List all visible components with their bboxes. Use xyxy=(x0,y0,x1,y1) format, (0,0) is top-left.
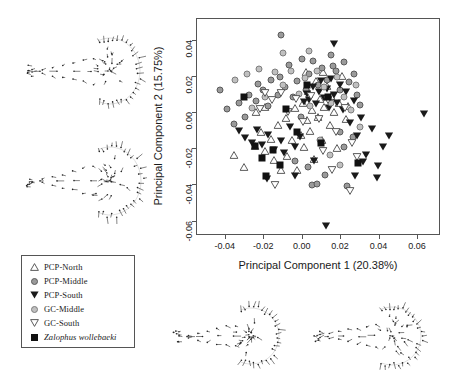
open-triangle-down-icon xyxy=(307,86,316,104)
top-left-landmark-grid xyxy=(18,22,158,120)
x-axis-tick xyxy=(263,235,264,239)
filled-square-icon xyxy=(303,82,310,89)
filled-circle-light-gray-icon xyxy=(248,104,255,111)
bottom-right-landmark-grid xyxy=(306,296,438,376)
filled-circle-gray-icon xyxy=(328,52,335,59)
filled-circle-light-gray-icon xyxy=(232,76,239,83)
open-triangle-down-icon xyxy=(30,319,39,327)
legend-item-label: GC-South xyxy=(44,318,79,328)
filled-circle-gray-icon xyxy=(27,278,41,285)
filled-circle-gray-icon xyxy=(293,78,300,85)
legend-item-label: PCP-Middle xyxy=(44,276,88,286)
filled-circle-light-gray-icon xyxy=(256,65,263,72)
legend-item-label: GC-Middle xyxy=(44,304,84,314)
scatter-points-layer xyxy=(197,19,439,234)
filled-triangle-down-icon xyxy=(367,119,376,137)
open-triangle-down-icon xyxy=(291,89,300,107)
y-axis-tick-label: -0.06 xyxy=(184,221,194,242)
open-triangle-down-icon xyxy=(328,160,337,178)
filled-circle-gray-icon xyxy=(277,32,284,39)
filled-circle-light-gray-icon xyxy=(31,306,38,313)
filled-circle-light-gray-icon xyxy=(334,73,341,80)
y-axis-tick-label: 0.00 xyxy=(184,112,194,130)
legend-item-pcp-south: PCP-South xyxy=(27,288,129,302)
x-axis-tick xyxy=(379,235,380,239)
filled-triangle-down-icon xyxy=(280,143,289,161)
filled-circle-gray-icon xyxy=(298,55,305,62)
filled-square-icon xyxy=(263,173,270,180)
filled-square-icon xyxy=(283,105,290,112)
filled-triangle-down-icon xyxy=(372,168,381,186)
x-axis-tick-label: 0.00 xyxy=(293,241,311,251)
filled-square-icon xyxy=(276,162,283,169)
open-triangle-down-icon xyxy=(332,122,341,140)
filled-circle-light-gray-icon xyxy=(288,68,295,75)
open-triangle-down-icon xyxy=(298,112,307,130)
open-triangle-down-icon xyxy=(256,99,265,117)
filled-circle-gray-icon xyxy=(291,157,298,164)
filled-square-icon xyxy=(355,159,362,166)
filled-circle-gray-icon xyxy=(242,113,249,120)
filled-triangle-down-icon xyxy=(330,34,339,52)
filled-circle-light-gray-icon xyxy=(280,50,287,57)
filled-circle-light-gray-icon xyxy=(320,83,327,90)
filled-triangle-down-icon xyxy=(419,104,428,122)
filled-circle-light-gray-icon xyxy=(337,162,344,169)
x-axis-tick-label: -0.02 xyxy=(253,241,274,251)
filled-circle-light-gray-icon xyxy=(306,47,313,54)
filled-triangle-down-icon xyxy=(385,126,394,144)
filled-square-icon xyxy=(259,155,266,162)
filled-circle-gray-icon xyxy=(314,181,321,188)
filled-circle-light-gray-icon xyxy=(243,71,250,78)
open-triangle-down-icon xyxy=(270,175,279,193)
filled-circle-gray-icon xyxy=(31,278,38,285)
filled-circle-light-gray-icon xyxy=(271,69,278,76)
filled-square-icon xyxy=(317,139,324,146)
x-axis-title: Principal Component 1 (20.38%) xyxy=(196,259,440,271)
open-triangle-down-icon xyxy=(315,109,324,127)
legend-item-zalophus-wollebaeki: Zalophus wollebaeki xyxy=(27,330,129,344)
x-axis-tick xyxy=(225,235,226,239)
legend-item-label: PCP-North xyxy=(44,262,83,272)
bottom-center-landmark-grid xyxy=(165,296,297,376)
y-axis-tick-label: -0.02 xyxy=(184,148,194,169)
filled-circle-gray-icon xyxy=(236,100,243,107)
y-axis-tick-label: 0.02 xyxy=(184,76,194,94)
y-axis-tick-label: -0.04 xyxy=(184,184,194,205)
x-axis-tick xyxy=(302,235,303,239)
filled-square-icon xyxy=(31,334,38,341)
filled-circle-light-gray-icon xyxy=(357,123,364,130)
filled-triangle-down-icon xyxy=(321,216,330,234)
filled-circle-light-gray-icon xyxy=(27,306,41,313)
filled-circle-light-gray-icon xyxy=(301,74,308,81)
legend-item-pcp-north: PCP-North xyxy=(27,260,129,274)
x-axis-tick xyxy=(340,235,341,239)
x-axis-tick-label: 0.06 xyxy=(408,241,426,251)
filled-square-icon xyxy=(269,147,276,154)
x-axis-tick-label: 0.02 xyxy=(331,241,349,251)
x-axis-tick-label: -0.04 xyxy=(215,241,236,251)
legend-item-label: Zalophus wollebaeki xyxy=(44,332,117,342)
pca-scatter-plot xyxy=(196,18,440,235)
filled-circle-light-gray-icon xyxy=(314,68,321,75)
filled-triangle-down-icon xyxy=(27,291,41,299)
legend-item-gc-middle: GC-Middle xyxy=(27,302,129,316)
legend-item-gc-south: GC-South xyxy=(27,316,129,330)
filled-circle-gray-icon xyxy=(340,59,347,66)
open-triangle-down-icon xyxy=(276,83,285,101)
filled-circle-gray-icon xyxy=(223,106,230,113)
open-triangle-down-icon xyxy=(27,319,41,327)
filled-triangle-down-icon xyxy=(30,291,39,299)
filled-circle-light-gray-icon xyxy=(353,82,360,89)
open-triangle-up-icon xyxy=(27,263,41,271)
open-triangle-down-icon xyxy=(340,98,349,116)
legend-item-label: PCP-South xyxy=(44,290,83,300)
filled-square-icon xyxy=(324,93,331,100)
filled-triangle-down-icon xyxy=(290,166,299,184)
middle-left-landmark-grid xyxy=(18,132,158,230)
x-axis-tick xyxy=(417,235,418,239)
filled-square-icon xyxy=(293,129,300,136)
filled-circle-gray-icon xyxy=(217,86,224,93)
open-triangle-down-icon xyxy=(345,181,354,199)
filled-circle-gray-icon xyxy=(310,57,317,64)
